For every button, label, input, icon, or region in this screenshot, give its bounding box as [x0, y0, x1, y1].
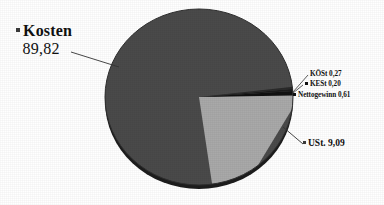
bullet-marker-kest-icon: [305, 82, 308, 85]
pie-chart: Kosten 89,82 KÖSt 0,27 KESt 0,20 Nettoge…: [0, 0, 384, 205]
pie-label-kest-text: KESt 0,20: [310, 80, 341, 88]
pie-label-nettogewinn: Nettogewinn 0,61: [293, 92, 350, 100]
bullet-marker-nettogewinn-icon: [293, 93, 296, 96]
leader-line-ust: [283, 127, 303, 144]
pie-label-koest-text: KÖSt 0,27: [310, 70, 342, 78]
leader-line-kosten: [71, 52, 119, 67]
pie-label-kosten: Kosten 89,82: [16, 22, 72, 58]
bullet-marker-ust-icon: [303, 141, 306, 144]
pie-label-ust-text: USt. 9,09: [308, 138, 345, 148]
pie-label-kest: KESt 0,20: [305, 81, 341, 89]
pie-label-ust: USt. 9,09: [303, 138, 345, 148]
pie-label-koest: KÖSt 0,27: [310, 71, 342, 79]
bullet-marker-kosten-icon: [16, 28, 20, 32]
pie-label-nettogewinn-text: Nettogewinn 0,61: [298, 91, 350, 99]
pie-label-kosten-value: 89,82: [16, 40, 72, 57]
pie-label-kosten-text: Kosten: [23, 22, 72, 39]
